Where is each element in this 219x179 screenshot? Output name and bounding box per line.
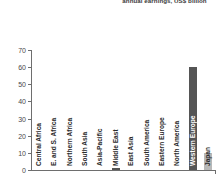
category-label: Central Africa [35, 123, 42, 166]
y-tick-mark [28, 153, 31, 154]
y-tick-mark [28, 50, 31, 51]
category-label: North America [173, 121, 180, 166]
x-axis-right-cap [215, 170, 216, 174]
y-tick-mark [28, 136, 31, 137]
y-axis-line [31, 50, 32, 170]
y-tick-mark [28, 67, 31, 68]
y-tick-label: 20 [18, 132, 26, 139]
y-tick-mark [28, 84, 31, 85]
category-label: Western Europe [189, 116, 196, 166]
y-tick-label: 50 [18, 81, 26, 88]
plot-area: 010203040506070 Central AfricaE. and S. … [31, 46, 216, 174]
category-label: E. and S. Africa [50, 118, 57, 166]
y-tick-label: 70 [18, 47, 26, 54]
y-tick-label: 40 [18, 98, 26, 105]
y-tick-mark [28, 119, 31, 120]
category-label: South Asia [81, 132, 88, 166]
y-tick-label: 30 [18, 115, 26, 122]
category-label: Eastern Europe [158, 117, 165, 166]
chart-title: annual earnings, US$ billion [112, 0, 217, 4]
category-label: Asia-Pacific [96, 129, 103, 166]
category-label: Northern Africa [66, 118, 73, 166]
category-label: Japan [204, 147, 211, 166]
y-tick-label: 10 [18, 149, 26, 156]
bar [112, 168, 120, 170]
y-tick-label: 0 [22, 167, 26, 174]
y-tick-mark [28, 170, 31, 171]
x-axis-line [31, 170, 216, 171]
y-tick-label: 60 [18, 64, 26, 71]
y-tick-mark [28, 101, 31, 102]
category-label: Middle East [112, 129, 119, 166]
category-label: South America [143, 120, 150, 166]
bar-chart: annual earnings, US$ billion 01020304050… [0, 0, 219, 179]
category-label: East Asia [127, 137, 134, 166]
